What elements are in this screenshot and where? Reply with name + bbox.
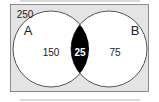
set-b-label: B: [131, 23, 140, 38]
cropped-text-bottom: [20, 99, 140, 101]
venn-diagram: 250 A B 150 75 25: [0, 0, 159, 102]
set-a-only-value: 150: [43, 47, 60, 58]
cropped-text-top: [20, 0, 140, 2]
set-b-only-value: 75: [109, 47, 121, 58]
intersection-value: 25: [74, 47, 86, 58]
universe-count: 250: [17, 9, 34, 20]
set-a-label: A: [24, 23, 33, 38]
